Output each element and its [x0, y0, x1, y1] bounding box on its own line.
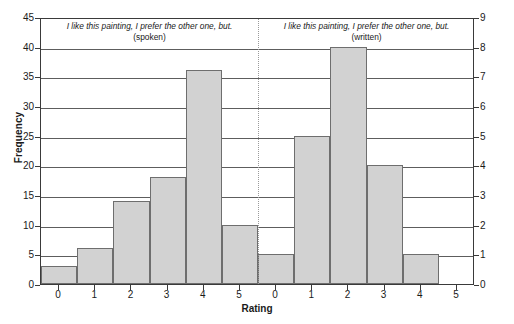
bar-slot [367, 19, 403, 284]
y-tick-label-left: 20 [4, 161, 34, 171]
panel-subtitle-text: (spoken) [41, 32, 258, 43]
y-tick-label-left: 0 [4, 280, 34, 290]
y-tick-label-left: 25 [4, 132, 34, 142]
y-tick-mark [35, 18, 40, 19]
x-tick-label: 5 [444, 290, 468, 300]
x-tick-label: 3 [155, 290, 179, 300]
bar[interactable] [186, 70, 222, 284]
x-tick-label: 0 [263, 290, 287, 300]
bar[interactable] [113, 201, 149, 284]
x-tick-mark [384, 285, 385, 290]
x-tick-mark [167, 285, 168, 290]
y-tick-mark [35, 255, 40, 256]
y-tick-mark [35, 107, 40, 108]
x-tick-label: 4 [191, 290, 215, 300]
x-axis-title: Rating [0, 303, 514, 314]
bar[interactable] [77, 248, 113, 284]
panel-spoken: I like this painting, I prefer the other… [41, 19, 258, 284]
y-tick-mark [474, 285, 479, 286]
y-tick-label-left: 30 [4, 102, 34, 112]
x-tick-label: 3 [372, 290, 396, 300]
bar[interactable] [150, 177, 186, 284]
y-tick-label-right: 9 [480, 13, 510, 23]
y-tick-label-left: 35 [4, 72, 34, 82]
y-tick-label-right: 6 [480, 102, 510, 112]
y-tick-label-left: 15 [4, 191, 34, 201]
bar-slot [222, 19, 258, 284]
bar[interactable] [367, 165, 403, 284]
y-tick-label-right: 2 [480, 221, 510, 231]
y-tick-label-right: 7 [480, 72, 510, 82]
x-tick-mark [58, 285, 59, 290]
bar-slot [403, 19, 439, 284]
bar-slot [77, 19, 113, 284]
y-tick-mark [35, 77, 40, 78]
bar-group [258, 19, 475, 284]
x-tick-mark [130, 285, 131, 290]
y-tick-label-right: 8 [480, 43, 510, 53]
bar-slot [330, 19, 366, 284]
panel-divider [258, 19, 259, 284]
bar[interactable] [258, 254, 294, 284]
y-tick-label-left: 40 [4, 43, 34, 53]
bar-slot [113, 19, 149, 284]
y-tick-label-left: 5 [4, 250, 34, 260]
bar[interactable] [330, 47, 366, 284]
bar-slot [150, 19, 186, 284]
bar-slot [258, 19, 294, 284]
y-tick-mark [35, 226, 40, 227]
y-tick-label-right: 5 [480, 132, 510, 142]
panel-title: I like this painting, I prefer the other… [258, 21, 475, 43]
bar[interactable] [403, 254, 439, 284]
bar-slot [439, 19, 475, 284]
y-tick-label-right: 4 [480, 161, 510, 171]
y-tick-mark [35, 196, 40, 197]
x-tick-mark [275, 285, 276, 290]
x-tick-label: 4 [408, 290, 432, 300]
y-tick-mark [35, 166, 40, 167]
bar-slot [186, 19, 222, 284]
y-tick-mark [35, 48, 40, 49]
x-tick-label: 0 [46, 290, 70, 300]
x-tick-label: 1 [82, 290, 106, 300]
panel-title-text: I like this painting, I prefer the other… [67, 21, 233, 31]
x-tick-mark [203, 285, 204, 290]
plot-area: I like this painting, I prefer the other… [40, 18, 474, 285]
x-tick-mark [420, 285, 421, 290]
x-tick-mark [347, 285, 348, 290]
y-tick-label-right: 1 [480, 250, 510, 260]
bar-slot [41, 19, 77, 284]
x-tick-label: 2 [335, 290, 359, 300]
bar-group [41, 19, 258, 284]
y-tick-label-left: 10 [4, 221, 34, 231]
histogram-figure: Frequency I like this painting, I prefer… [0, 0, 514, 324]
x-tick-mark [456, 285, 457, 290]
x-tick-label: 1 [299, 290, 323, 300]
panel-title: I like this painting, I prefer the other… [41, 21, 258, 43]
bar-slot [294, 19, 330, 284]
y-tick-label-right: 0 [480, 280, 510, 290]
x-tick-mark [239, 285, 240, 290]
bar[interactable] [41, 266, 77, 284]
bar[interactable] [222, 225, 258, 284]
x-tick-label: 5 [227, 290, 251, 300]
y-tick-label-right: 3 [480, 191, 510, 201]
x-tick-mark [94, 285, 95, 290]
panel-subtitle-text: (written) [258, 32, 475, 43]
y-tick-mark [35, 137, 40, 138]
y-tick-label-left: 45 [4, 13, 34, 23]
panel-written: I like this painting, I prefer the other… [258, 19, 475, 284]
x-tick-label: 2 [118, 290, 142, 300]
bar[interactable] [294, 136, 330, 284]
panel-title-text: I like this painting, I prefer the other… [284, 21, 450, 31]
x-tick-mark [311, 285, 312, 290]
y-tick-mark [35, 285, 40, 286]
